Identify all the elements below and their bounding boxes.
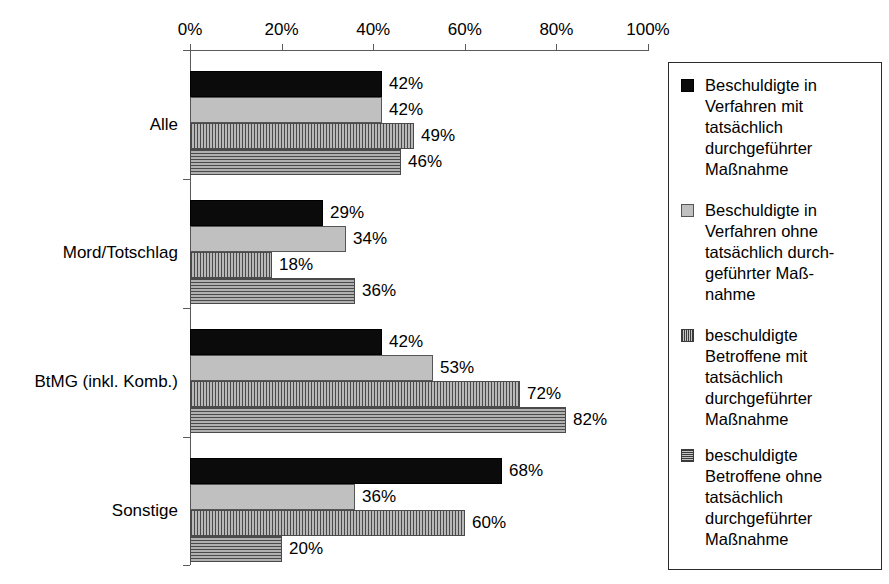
legend-label-3: beschuldigte Betroffene ohne tatsächlich… <box>705 445 873 550</box>
x-tick-label-60: 60% <box>448 20 482 40</box>
legend-item-1: Beschuldigte in Verfahren ohne tatsächli… <box>681 200 873 305</box>
bar-value-alle-series2: 49% <box>421 126 455 146</box>
x-axis-tick-60 <box>465 44 466 51</box>
legend-label-1: Beschuldigte in Verfahren ohne tatsächli… <box>705 200 873 305</box>
bar-value-mord-series2: 18% <box>279 255 313 275</box>
bar-alle-series3 <box>190 149 401 175</box>
y-axis-tick-top <box>183 50 190 51</box>
bar-sonstige-series0 <box>190 458 502 484</box>
category-label-sonstige: Sonstige <box>112 501 178 521</box>
bar-value-btmg-series2: 72% <box>527 384 561 404</box>
bar-value-btmg-series0: 42% <box>389 332 423 352</box>
bar-mord-series3 <box>190 278 355 304</box>
bar-value-alle-series1: 42% <box>389 100 423 120</box>
bar-value-alle-series3: 46% <box>408 152 442 172</box>
bar-value-btmg-series3: 82% <box>573 410 607 430</box>
bar-sonstige-series1 <box>190 484 355 510</box>
legend-label-2: beschuldigte Betroffene mit tatsächlich … <box>705 325 873 430</box>
legend-item-3: beschuldigte Betroffene ohne tatsächlich… <box>681 445 873 550</box>
bar-alle-series0 <box>190 71 382 97</box>
x-axis-line <box>190 50 649 51</box>
bar-mord-series1 <box>190 226 346 252</box>
legend-swatch-solid-gray-icon <box>681 204 694 217</box>
y-axis-tick-1 <box>183 179 190 180</box>
bar-value-sonstige-series3: 20% <box>289 539 323 559</box>
x-tick-label-0: 0% <box>178 20 203 40</box>
x-axis-tick-20 <box>282 44 283 51</box>
bar-btmg-series1 <box>190 355 433 381</box>
bar-sonstige-series3 <box>190 536 282 562</box>
bar-value-mord-series3: 36% <box>362 281 396 301</box>
x-tick-label-100: 100% <box>626 20 669 40</box>
legend-swatch-vertical-stripes-icon <box>681 329 694 342</box>
bar-value-btmg-series1: 53% <box>440 358 474 378</box>
bar-mord-series2 <box>190 252 272 278</box>
x-axis-tick-80 <box>556 44 557 51</box>
x-axis-tick-40 <box>373 44 374 51</box>
x-tick-label-20: 20% <box>265 20 299 40</box>
bar-value-mord-series1: 34% <box>353 229 387 249</box>
legend-item-2: beschuldigte Betroffene mit tatsächlich … <box>681 325 873 430</box>
legend-swatch-horizontal-stripes-icon <box>681 449 694 462</box>
bar-alle-series2 <box>190 123 414 149</box>
y-axis-tick-bottom <box>183 565 190 566</box>
x-axis-tick-100 <box>648 44 649 51</box>
bar-value-sonstige-series0: 68% <box>509 461 543 481</box>
x-tick-label-80: 80% <box>539 20 573 40</box>
y-axis-tick-3 <box>183 437 190 438</box>
legend-item-0: Beschuldigte in Verfahren mit tatsächlic… <box>681 75 873 180</box>
bar-value-sonstige-series2: 60% <box>472 513 506 533</box>
bar-btmg-series0 <box>190 329 382 355</box>
bar-btmg-series2 <box>190 381 520 407</box>
bar-alle-series1 <box>190 97 382 123</box>
bar-value-mord-series0: 29% <box>330 203 364 223</box>
legend-label-0: Beschuldigte in Verfahren mit tatsächlic… <box>705 75 873 180</box>
legend-swatch-solid-black-icon <box>681 79 694 92</box>
x-tick-label-40: 40% <box>356 20 390 40</box>
bar-mord-series0 <box>190 200 323 226</box>
bar-btmg-series3 <box>190 407 566 433</box>
horizontal-bar-chart: 0% 20% 40% 60% 80% 100% Alle Mord/Totsch… <box>0 0 889 584</box>
y-axis-tick-2 <box>183 308 190 309</box>
category-label-alle: Alle <box>150 115 178 135</box>
x-axis-tick-labels: 0% 20% 40% 60% 80% 100% <box>0 20 889 44</box>
category-label-btmg: BtMG (inkl. Komb.) <box>34 372 178 392</box>
chart-legend: Beschuldigte in Verfahren mit tatsächlic… <box>668 62 882 570</box>
bar-value-sonstige-series1: 36% <box>362 487 396 507</box>
category-label-mord: Mord/Totschlag <box>63 243 178 263</box>
bar-sonstige-series2 <box>190 510 465 536</box>
bar-value-alle-series0: 42% <box>389 74 423 94</box>
